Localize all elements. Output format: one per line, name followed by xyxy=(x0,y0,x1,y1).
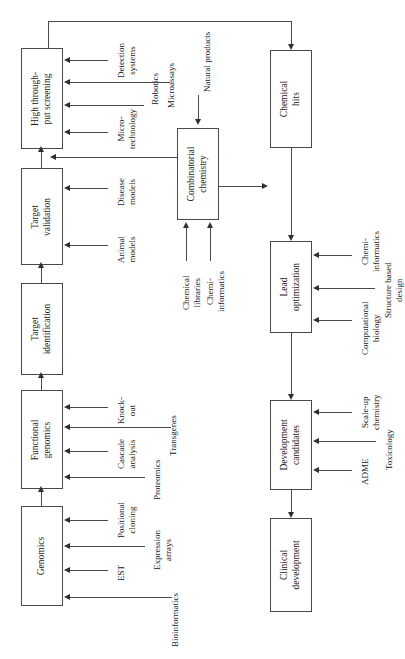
label-proteomics: Proteomics xyxy=(152,460,163,501)
label-line1: Chemical xyxy=(181,276,191,311)
label-robotics: Robotics xyxy=(150,73,161,105)
arrowhead-left xyxy=(50,154,56,160)
edge-hts-out-vertical xyxy=(48,21,49,48)
node-label: Functional genomics xyxy=(30,419,54,460)
label-knock-out: Knock- out xyxy=(116,397,138,424)
label-line1: Computational xyxy=(360,302,370,356)
label-line1: Microassays xyxy=(166,63,176,108)
arrowhead-down xyxy=(195,119,201,125)
node-label: High through- put screening xyxy=(30,71,54,125)
node-high-throughput-screening[interactable]: High through- put screening xyxy=(21,48,63,149)
label-line1: Animal xyxy=(116,236,126,263)
node-lead-optimization[interactable]: Lead optimization xyxy=(270,241,312,333)
edge-robotics-to-hts xyxy=(70,105,144,106)
node-label-line1: Lead xyxy=(279,278,289,297)
arrowhead-down xyxy=(288,235,294,241)
node-label: Genomics xyxy=(36,537,48,576)
edge-natural-products-to-combichem xyxy=(198,95,199,122)
edge-computational-biology-to-lead-optimization xyxy=(319,320,352,321)
arrowhead-left xyxy=(64,404,70,410)
node-target-identification[interactable]: Target identification xyxy=(21,283,63,375)
label-line1: Detection xyxy=(116,43,126,78)
node-label-line1: Target xyxy=(30,317,40,341)
label-line1: ADME xyxy=(360,459,370,486)
label-line2: out xyxy=(127,405,137,417)
label-line2: libraries xyxy=(192,278,202,308)
node-label: Combinatorial chemistry xyxy=(186,147,210,202)
label-line1: Transgenes xyxy=(168,415,178,456)
edge-proteomics-to-functional-genomics xyxy=(70,477,145,478)
label-line2: models xyxy=(127,237,137,263)
node-target-validation[interactable]: Target validation xyxy=(21,168,63,265)
node-label-line2: put screening xyxy=(42,73,52,124)
edge-transgenes-to-functional-genomics xyxy=(70,427,171,428)
label-line2: design xyxy=(394,278,404,302)
label-expression-arrays: Expression arrays xyxy=(152,530,174,570)
arrowhead-left xyxy=(313,317,319,323)
node-label-line1: Functional xyxy=(30,419,40,460)
node-label-line1: Clinical xyxy=(279,550,289,580)
arrowhead-left xyxy=(64,79,70,85)
label-animal-models: Animal models xyxy=(116,236,138,263)
label-chemi-informatics-combichem: Chemi- informatics xyxy=(205,271,227,312)
node-label-line1: Target xyxy=(30,205,40,229)
node-label: Development candidates xyxy=(279,419,303,470)
node-label: Target validation xyxy=(30,198,54,236)
label-natural-products: Natural products xyxy=(202,32,213,92)
label-est: EST xyxy=(116,565,127,581)
label-transgenes: Transgenes xyxy=(168,415,179,456)
label-positional-cloning: Positional cloning xyxy=(116,502,138,538)
node-label-line2: genomics xyxy=(42,421,52,457)
node-label-line2: candidates xyxy=(291,425,301,465)
node-label-line1: High through- xyxy=(30,71,40,125)
label-microassays: Microassays xyxy=(166,63,177,108)
arrowhead-left xyxy=(64,448,70,454)
label-line2: technology xyxy=(127,109,137,149)
node-clinical-development[interactable]: Clinical development xyxy=(270,518,312,612)
label-line1: Positional xyxy=(116,502,126,538)
node-label-line2: identification xyxy=(42,304,52,355)
edge-micro-technology-to-hts xyxy=(70,132,108,133)
node-functional-genomics[interactable]: Functional genomics xyxy=(21,390,63,489)
arrowhead-left xyxy=(64,594,70,600)
node-label-line2: chemistry xyxy=(198,155,208,192)
label-line2: informatics xyxy=(216,271,226,312)
node-label-line1: Development xyxy=(279,419,289,470)
arrowhead-up xyxy=(38,262,44,268)
arrowhead-down xyxy=(288,44,294,50)
label-bioinformatics: Bioinformatics xyxy=(170,593,181,647)
node-label: Clinical development xyxy=(279,540,303,589)
label-line1: EST xyxy=(116,565,126,581)
label-line1: Proteomics xyxy=(152,460,162,501)
edge-chemi-informatics-to-lead-optimization xyxy=(319,255,352,256)
label-line2: systems xyxy=(127,46,137,75)
edge-expression-arrays-to-genomics xyxy=(70,546,145,547)
edge-bioinformatics-to-genomics xyxy=(70,597,172,598)
label-toxicology: Toxicology xyxy=(384,429,395,470)
node-development-candidates[interactable]: Development candidates xyxy=(270,400,312,490)
label-line2: chemistry xyxy=(371,395,381,431)
edge-structure-based-design-to-lead-optimization xyxy=(319,288,375,289)
node-label-line1: Combinatorial xyxy=(186,147,196,202)
edge-est-to-genomics xyxy=(70,570,108,571)
node-label-line2: development xyxy=(291,540,301,589)
arrowhead-up xyxy=(38,146,44,152)
label-line1: Structure based xyxy=(383,262,393,318)
label-line1: Micro- xyxy=(116,117,126,142)
node-genomics[interactable]: Genomics xyxy=(21,506,63,606)
arrowhead-left xyxy=(313,252,319,258)
label-scale-up-chemistry: Scale-up chemistry xyxy=(360,395,382,431)
node-combinatorial-chemistry[interactable]: Combinatorial chemistry xyxy=(177,128,219,220)
label-line2: biology xyxy=(371,315,381,343)
label-line1: Cascade xyxy=(116,439,126,469)
edge-chemi-informatics-to-combichem xyxy=(210,228,211,261)
label-computational-biology: Computational biology xyxy=(360,302,382,356)
label-line1: Scale-up xyxy=(360,397,370,429)
edge-hts-to-chemical-hits-horizontal xyxy=(48,21,291,22)
label-disease-models: Disease models xyxy=(116,178,138,206)
node-chemical-hits[interactable]: Chemical hits xyxy=(270,50,312,148)
arrowhead-left xyxy=(64,242,70,248)
node-label: Target identification xyxy=(30,304,54,355)
label-cascade-analysis: Cascade analysis xyxy=(116,439,138,469)
node-label: Lead optimization xyxy=(279,263,303,311)
